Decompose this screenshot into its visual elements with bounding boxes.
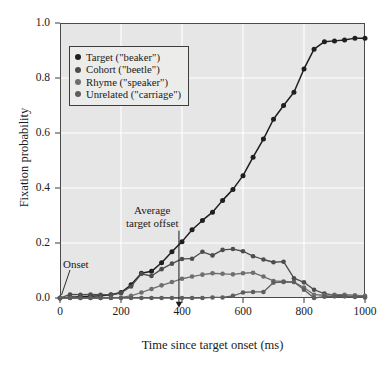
legend-item-cohort: Cohort ("beetle") xyxy=(75,63,181,75)
y-tick-label: 0.2 xyxy=(16,237,50,249)
x-tick-label: 0 xyxy=(40,306,80,318)
figure: 0.00.20.40.60.81.0 02004006008001000 Fix… xyxy=(0,0,385,367)
legend: Target ("beaker") Cohort ("beetle") Rhym… xyxy=(69,46,189,106)
legend-marker-icon xyxy=(75,79,81,85)
annotation-onset: Onset xyxy=(63,258,89,271)
legend-label: Rhyme ("speaker") xyxy=(86,76,168,88)
x-tick-label: 600 xyxy=(223,306,263,318)
annotation-target-offset-line2: target offset xyxy=(126,217,178,230)
legend-marker-icon xyxy=(75,91,81,97)
legend-marker-icon xyxy=(75,54,81,60)
legend-label: Cohort ("beetle") xyxy=(86,63,160,75)
y-tick-label: 1.0 xyxy=(16,17,50,29)
annotation-target-offset-line1: Average xyxy=(126,204,178,217)
legend-item-rhyme: Rhyme ("speaker") xyxy=(75,76,181,88)
annotation-target-offset: Average target offset xyxy=(126,204,178,229)
x-tick-label: 400 xyxy=(162,306,202,318)
legend-item-target: Target ("beaker") xyxy=(75,51,181,63)
x-tick-label: 800 xyxy=(284,306,324,318)
x-tick-label: 200 xyxy=(101,306,141,318)
x-tick-label: 1000 xyxy=(345,306,385,318)
y-axis-title: Fixation probability xyxy=(17,78,32,238)
legend-label: Target ("beaker") xyxy=(86,51,160,63)
x-axis-title: Time since target onset (ms) xyxy=(60,338,365,353)
legend-item-unrelated: Unrelated ("carriage") xyxy=(75,88,181,100)
legend-marker-icon xyxy=(75,67,81,73)
y-tick-label: 0.0 xyxy=(16,292,50,304)
legend-label: Unrelated ("carriage") xyxy=(86,88,181,100)
